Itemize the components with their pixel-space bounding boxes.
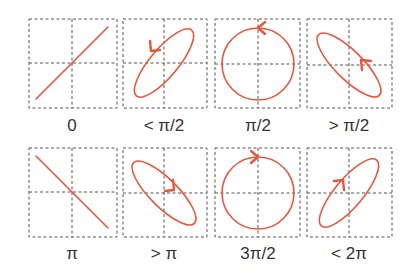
- panel-2pi: < 2π: [307, 148, 392, 263]
- phase-label: 3π/2: [240, 244, 275, 263]
- panel-pi-2: < π/2: [123, 19, 207, 135]
- panel-0: 0: [29, 19, 117, 135]
- phase-label: 0: [67, 116, 76, 135]
- lissajous-diagram: 0< π/2π/2> π/2π> π3π/2< 2π: [0, 0, 411, 280]
- phase-label: π/2: [245, 116, 271, 135]
- phase-label: < 2π: [331, 244, 367, 263]
- phase-label: > π/2: [329, 116, 370, 135]
- phase-label: < π/2: [144, 116, 185, 135]
- panel-pi-2: π/2: [215, 19, 300, 135]
- direction-arrow-icon: [150, 41, 160, 51]
- panel-pi-2: > π/2: [307, 19, 392, 135]
- direction-arrow-icon: [165, 180, 174, 191]
- phase-label: π: [66, 244, 78, 263]
- panel-pi: > π: [123, 148, 207, 263]
- panel-pi: π: [29, 148, 117, 263]
- phase-label: > π: [151, 244, 177, 263]
- panel-3pi-2: 3π/2: [215, 148, 300, 263]
